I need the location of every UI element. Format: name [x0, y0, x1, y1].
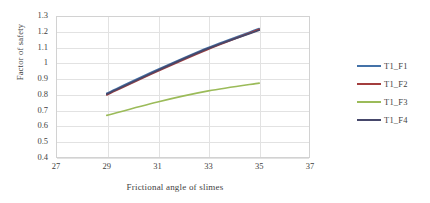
legend-item-t1_f4[interactable]: T1_F4 [357, 111, 429, 129]
series-line-t1_f2 [107, 29, 259, 94]
legend-swatch-line [357, 101, 381, 103]
series-line-t1_f3 [107, 83, 259, 115]
legend-item-label: T1_F4 [384, 115, 408, 125]
legend-swatch-line [357, 83, 381, 85]
legend-item-t1_f2[interactable]: T1_F2 [357, 75, 429, 93]
legend-item-label: T1_F2 [384, 79, 408, 89]
chart-container: Factor of safety Frictional angle of sli… [0, 0, 430, 203]
legend-swatch-line [357, 119, 381, 121]
legend-item-label: T1_F3 [384, 97, 408, 107]
legend-swatch-line [357, 65, 381, 67]
chart-legend: T1_F1T1_F2T1_F3T1_F4 [357, 57, 429, 129]
legend-item-t1_f1[interactable]: T1_F1 [357, 57, 429, 75]
legend-item-label: T1_F1 [384, 61, 408, 71]
legend-item-t1_f3[interactable]: T1_F3 [357, 93, 429, 111]
